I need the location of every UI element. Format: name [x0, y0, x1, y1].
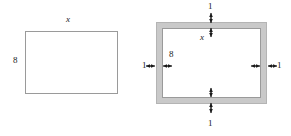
inner-region	[163, 29, 261, 98]
bordered-rect-inner-height-label: 8	[169, 50, 174, 59]
border-thickness-left-label: 1	[142, 61, 147, 70]
plain-rect-width-label: x	[66, 15, 70, 24]
plain-rectangle-shape	[26, 32, 118, 94]
bordered-rect-inner-width-label: x	[200, 33, 204, 42]
border-thickness-right-label: 1	[277, 61, 282, 70]
border-thickness-top-label: 1	[208, 2, 213, 11]
plain-rect-height-label: 8	[13, 56, 18, 65]
bordered-rectangle-figure	[146, 13, 277, 113]
plain-rectangle-figure	[26, 32, 118, 94]
border-thickness-bottom-label: 1	[208, 119, 213, 128]
